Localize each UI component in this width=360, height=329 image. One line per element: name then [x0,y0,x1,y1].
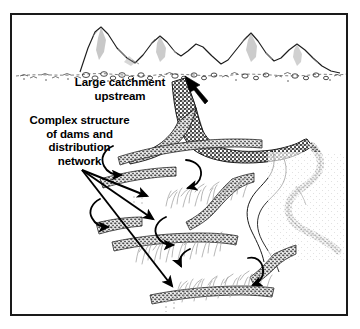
mountain-range [80,27,340,73]
label-large-catchment-upstream: Large catchment upstream [55,76,185,103]
figure-canvas: Large catchment upstream Complex structu… [0,0,360,329]
dam-wall-2 [100,167,176,188]
label-complex-structure-of-dams: Complex structure of dams and distributi… [12,114,147,168]
dam-wall-4 [96,217,142,234]
